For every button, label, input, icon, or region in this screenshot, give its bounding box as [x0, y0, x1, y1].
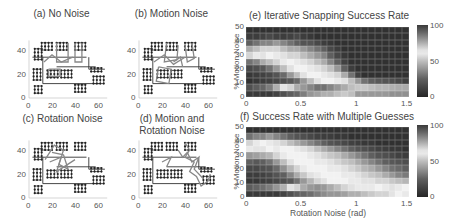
y-tick: 0 [131, 193, 135, 202]
heatmap-cell [368, 191, 375, 197]
y-tick: 20 [235, 64, 244, 73]
heatmap-cell [253, 191, 260, 197]
y-tick: 40 [235, 36, 244, 45]
heatmap-f-xlabel: Rotation Noise (rad) [290, 208, 366, 218]
network-edges [142, 142, 214, 195]
heatmap-cell [321, 191, 328, 197]
x-tick: 0.5 [295, 199, 306, 208]
x-tick: 0 [26, 201, 30, 210]
y-tick: 10 [235, 178, 244, 187]
heatmap-cell [382, 191, 389, 197]
heatmap-cell [395, 91, 402, 97]
y-tick: 20 [17, 70, 26, 79]
x-tick: 60 [204, 101, 213, 110]
x-tick: 60 [94, 201, 103, 210]
y-tick: 10 [235, 78, 244, 87]
network-edges [32, 142, 104, 195]
x-tick: 60 [94, 101, 103, 110]
heatmap-cell [307, 91, 314, 97]
heatmap-cell [287, 91, 294, 97]
heatmap-cell [368, 91, 375, 97]
x-tick: 1.5 [401, 99, 412, 108]
colorbar-f [417, 125, 428, 197]
y-tick: 40 [17, 46, 26, 55]
colorbar-tick: 50 [430, 157, 439, 166]
heatmap-cell [355, 191, 362, 197]
y-tick: 40 [127, 146, 136, 155]
heatmap-cell [334, 191, 341, 197]
heatmap-cell [395, 191, 402, 197]
network-edges [142, 42, 214, 95]
heatmap-cell [375, 191, 382, 197]
y-tick: 40 [127, 46, 136, 55]
heatmap-cell [327, 191, 334, 197]
heatmap-cell [321, 91, 328, 97]
x-tick: 20 [48, 201, 57, 210]
y-tick: 40 [17, 146, 26, 155]
y-tick: 0 [21, 193, 25, 202]
heatmap-cell [307, 191, 314, 197]
x-tick: 20 [158, 201, 167, 210]
heatmap-cell [382, 91, 389, 97]
heatmap-cell [355, 91, 362, 97]
heatmap-cell [260, 91, 267, 97]
heatmap-cell [280, 91, 287, 97]
colorbar-tick: 100 [430, 121, 443, 130]
heatmap-cell [266, 191, 273, 197]
x-tick: 20 [158, 101, 167, 110]
y-tick: 0 [131, 93, 135, 102]
heatmap-cell [361, 191, 368, 197]
y-tick: 20 [17, 170, 26, 179]
heatmap-cell [273, 91, 280, 97]
heatmap-cell [402, 91, 409, 97]
heatmap-cell [348, 191, 355, 197]
heatmap-cell [314, 91, 321, 97]
y-tick: 40 [235, 136, 244, 145]
x-tick: 40 [71, 201, 80, 210]
x-tick: 0 [26, 101, 30, 110]
colorbar-tick: 50 [430, 57, 439, 66]
heatmap-e-title: (e) Iterative Snapping Success Rate [246, 10, 412, 21]
x-tick: 0 [136, 201, 140, 210]
heatmap-cell [341, 91, 348, 97]
x-tick: 0.5 [295, 99, 306, 108]
x-tick: 0 [136, 101, 140, 110]
heatmap-cell [389, 191, 396, 197]
heatmap-cell [260, 191, 267, 197]
heatmap-cell [300, 91, 307, 97]
colorbar-e [417, 25, 428, 97]
y-tick: 30 [235, 50, 244, 59]
colorbar-tick: 100 [430, 21, 443, 30]
colorbar-tick: 0 [430, 192, 434, 201]
heatmap-cell [300, 191, 307, 197]
x-tick: 20 [48, 101, 57, 110]
estimated-path [44, 43, 82, 77]
y-tick: 20 [127, 70, 136, 79]
heatmap-cell [341, 191, 348, 197]
heatmap-cell [314, 191, 321, 197]
heatmap-cell [266, 91, 273, 97]
colorbar-tick: 0 [430, 92, 434, 101]
x-tick: 1 [354, 199, 358, 208]
heatmap-cell [334, 91, 341, 97]
y-tick: 50 [235, 22, 244, 31]
heatmap-cell [280, 191, 287, 197]
heatmap-cell [246, 91, 253, 97]
x-tick: 0 [244, 199, 248, 208]
heatmap-f [246, 127, 409, 197]
heatmap-cell [402, 191, 409, 197]
panel-d-title-line2: Rotation Noise [122, 125, 222, 136]
heatmap-e [246, 27, 409, 97]
y-tick: 20 [235, 164, 244, 173]
x-tick: 40 [71, 101, 80, 110]
heatmap-cell [273, 191, 280, 197]
x-tick: 0 [244, 99, 248, 108]
heatmap-cell [294, 91, 301, 97]
x-tick: 40 [181, 201, 190, 210]
panel-a-title: (a) No Noise [14, 8, 109, 19]
heatmap-cell [327, 91, 334, 97]
heatmap-cell [389, 91, 396, 97]
x-tick: 1 [354, 99, 358, 108]
heatmap-cell [253, 91, 260, 97]
panel-b-title: (b) Motion Noise [119, 8, 224, 19]
